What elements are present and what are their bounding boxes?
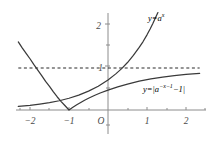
- x-tick-label-plus2: 2: [184, 116, 189, 126]
- curve-absolute-value: [18, 42, 199, 110]
- x-tick-label-plus1: 1: [145, 116, 150, 126]
- curve-label-abs-exponent: −x−1: [159, 83, 173, 89]
- curve-label-exponential-text: y=a: [148, 13, 162, 23]
- x-tick-label-minus2: −2: [24, 116, 35, 126]
- axes-group: [16, 13, 206, 134]
- curve-label-absolute-value: y=|a−x−1−1|: [143, 83, 185, 94]
- origin-label: O: [98, 116, 105, 126]
- curve-label-exponential-exponent: x: [162, 12, 165, 18]
- x-tick-label-minus1: −1: [63, 116, 74, 126]
- curve-label-abs-prefix: y=|a: [143, 84, 159, 94]
- curve-label-abs-suffix: −1|: [173, 84, 185, 94]
- function-graph-figure: −2 −1 1 2 O 2 1 y=ax y=|a−x−1−1|: [0, 0, 215, 143]
- y-tick-label-1: 1: [98, 63, 103, 73]
- plot-canvas: −2 −1 1 2 O 2 1: [0, 0, 215, 143]
- curve-exponential: [18, 13, 158, 107]
- y-tick-label-2: 2: [96, 21, 101, 31]
- curve-label-exponential: y=ax: [148, 12, 164, 23]
